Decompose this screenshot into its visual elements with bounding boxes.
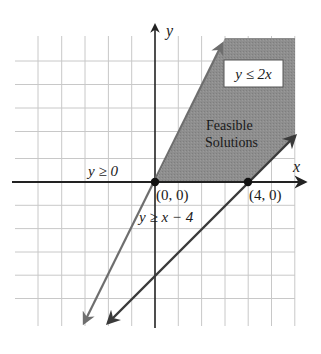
label-ineq-0: y ≥ 0 (86, 163, 118, 179)
point-origin (151, 178, 159, 186)
label-ineq-x4: y ≥ x − 4 (137, 209, 194, 225)
label-feasible-2: Solutions (205, 135, 258, 150)
label-ineq-2x: y ≤ 2x (233, 66, 272, 82)
y-axis-label: y (164, 22, 174, 40)
label-feasible-1: Feasible (206, 118, 253, 133)
x-axis-label: x (292, 158, 300, 175)
label-point-origin: (0, 0) (156, 187, 189, 204)
point-four-zero (244, 178, 252, 186)
chart-canvas: y ≤ 2x Feasible Solutions y x y ≥ 0 y ≥ … (0, 0, 321, 354)
label-point-four: (4, 0) (249, 187, 282, 204)
